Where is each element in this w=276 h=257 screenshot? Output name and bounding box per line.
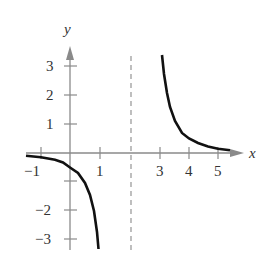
y-axis-label: y — [62, 21, 71, 37]
x-axis-label: x — [248, 145, 256, 161]
svg-text:−3: −3 — [35, 231, 51, 247]
y-axis — [64, 46, 77, 250]
svg-text:−2: −2 — [35, 202, 51, 218]
svg-text:3: 3 — [156, 163, 164, 179]
svg-text:3: 3 — [46, 58, 54, 74]
x-axis-arrow-icon — [230, 149, 244, 157]
svg-text:1: 1 — [96, 163, 104, 179]
x-axis — [26, 147, 244, 159]
svg-text:−1: −1 — [24, 163, 40, 179]
svg-text:1: 1 — [46, 116, 54, 132]
y-axis-arrow-icon — [66, 46, 74, 60]
x-tick-labels: −1 1 3 4 5 — [24, 163, 222, 179]
curve-right-branch — [162, 55, 230, 150]
svg-text:5: 5 — [214, 163, 222, 179]
svg-text:4: 4 — [185, 163, 193, 179]
chart: y x −1 1 3 4 5 3 2 1 −2 −3 — [0, 0, 276, 257]
svg-text:2: 2 — [46, 87, 54, 103]
